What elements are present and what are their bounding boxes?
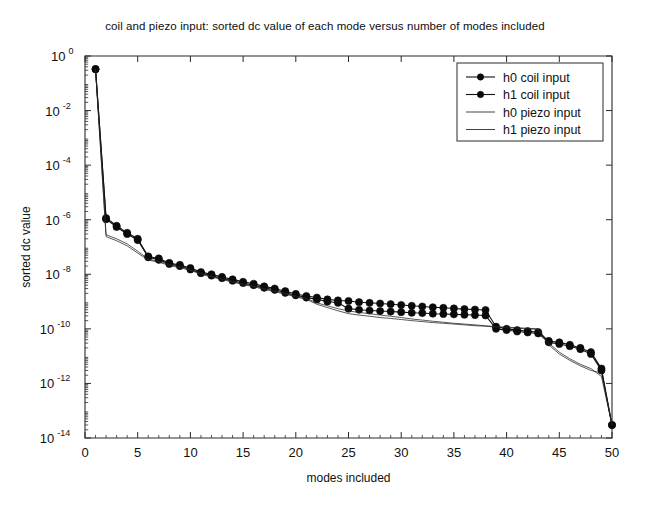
legend-group: h0 coil inputh1 coil inputh0 piezo input… [457,63,603,141]
y-tick-label-exponent: -8 [63,264,71,274]
data-point-marker [556,340,563,347]
data-point-marker [398,309,405,316]
y-tick-label-exponent: -4 [63,155,71,165]
data-point-marker [113,223,120,230]
data-point-marker [377,307,384,314]
data-point-marker [429,304,436,311]
data-point-marker [450,311,457,318]
data-point-marker [134,236,141,243]
x-tick-label: 5 [134,445,141,460]
x-tick-label: 0 [81,445,88,460]
y-tick-label-mantissa: 10 [45,267,59,282]
data-point-marker [377,300,384,307]
data-point-marker [482,312,489,319]
data-point-marker [524,329,531,336]
data-point-marker [440,310,447,317]
y-tick-label-mantissa: 10 [45,213,59,228]
data-point-marker [345,297,352,304]
data-point-marker [461,311,468,318]
data-point-marker [408,302,415,309]
data-point-marker [566,343,573,350]
data-point-marker [387,308,394,315]
legend-sample-marker-1 [477,91,483,97]
data-point-marker [471,311,478,318]
y-tick-label-mantissa: 10 [45,158,59,173]
figure-canvas: coil and piezo input: sorted dc value of… [0,0,650,508]
x-tick-label: 10 [183,445,197,460]
data-point-marker [419,303,426,310]
data-point-marker [240,279,247,286]
y-tick-label-mantissa: 10 [40,322,54,337]
data-point-marker [419,309,426,316]
x-tick-label: 50 [605,445,619,460]
y-tick-label-exponent: -14 [57,428,70,438]
plot-area: 0510152025303540455010010-210-410-610-81… [0,0,650,508]
y-tick-label-exponent: -12 [57,373,70,383]
y-axis-label: sorted dc value [19,206,33,288]
data-point-marker [124,230,131,237]
y-tick-label-exponent: 0 [68,46,73,56]
x-tick-label: 25 [341,445,355,460]
data-point-marker [514,328,521,335]
data-point-marker [429,310,436,317]
data-point-marker [387,301,394,308]
x-tick-label: 30 [394,445,408,460]
data-point-marker [408,309,415,316]
data-point-marker [366,299,373,306]
legend-sample-marker-0 [477,74,483,80]
axis-labels-group: modes includedsorted dc value [19,206,391,485]
x-tick-label: 15 [236,445,250,460]
x-tick-label: 35 [447,445,461,460]
y-tick-label-exponent: -10 [57,319,70,329]
x-axis-label: modes included [306,471,390,485]
y-tick-label-mantissa: 10 [40,431,54,446]
legend-label-1: h1 coil input [503,88,570,102]
x-tick-label: 40 [499,445,513,460]
y-tick-label-mantissa: 10 [45,104,59,119]
data-point-marker [587,350,594,357]
y-tick-label-mantissa: 10 [51,49,65,64]
x-tick-label: 45 [552,445,566,460]
y-tick-label-exponent: -6 [63,210,71,220]
legend-label-0: h0 coil input [503,71,570,85]
data-point-marker [334,299,341,306]
data-point-marker [398,301,405,308]
x-tick-label: 20 [289,445,303,460]
data-point-marker [324,298,331,305]
legend-label-2: h0 piezo input [503,106,581,120]
y-tick-label-mantissa: 10 [40,376,54,391]
data-point-marker [355,299,362,306]
data-point-marker [577,346,584,353]
data-point-marker [102,216,109,223]
legend-label-3: h1 piezo input [503,123,581,137]
y-tick-label-exponent: -2 [63,101,71,111]
